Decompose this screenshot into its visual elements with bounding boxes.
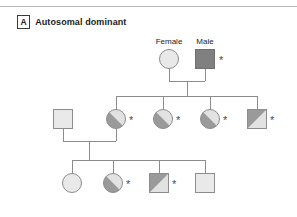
legend-label-female: Female [156,37,183,46]
pedigree-symbol-female-unaffected[interactable] [160,50,179,69]
pedigree-symbol-ii-1-female-carrier[interactable] [107,110,126,129]
asterisk-marker-ii1: * [129,114,134,126]
pedigree-diagram: Female Male * * * * * * * [0,0,297,217]
pedigree-symbol-iii-2-female-carrier[interactable] [104,174,123,193]
pedigree-symbol-iii-1-female-unaffected[interactable] [63,174,82,193]
asterisk-marker-ii3: * [223,114,228,126]
pedigree-symbol-male-affected[interactable] [196,50,215,69]
asterisk-marker-iii2: * [126,178,131,190]
figure-panel: A Autosomal dominant [0,0,297,217]
pedigree-symbol-iii-3-male-carrier[interactable] [150,174,169,193]
legend-label-male: Male [196,37,214,46]
asterisk-marker-ii2: * [176,114,181,126]
asterisk-marker-i2: * [219,54,224,66]
generation-iii: * * [63,174,215,193]
pedigree-symbol-ii-spouse-male[interactable] [54,110,73,129]
generation-ii: * * * * [54,110,276,129]
generation-i: Female Male * [156,37,224,69]
asterisk-marker-ii4: * [270,114,275,126]
pedigree-symbol-ii-4-male-carrier[interactable] [248,110,267,129]
asterisk-marker-iii3: * [172,178,177,190]
pedigree-symbol-ii-2-female-carrier[interactable] [154,110,173,129]
pedigree-symbol-ii-3-female-carrier[interactable] [201,110,220,129]
pedigree-symbol-iii-4-male-unaffected[interactable] [196,174,215,193]
